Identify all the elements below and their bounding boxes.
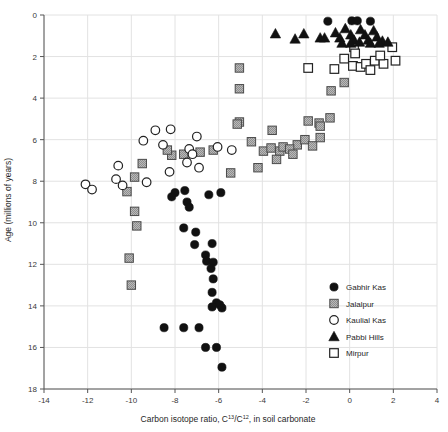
data-point [151,126,160,135]
data-point [168,193,176,201]
data-point [290,34,300,43]
data-point [330,65,339,74]
data-point [127,281,135,289]
data-point [267,144,275,152]
data-point [185,203,193,211]
data-point [209,275,217,283]
data-point [272,155,280,163]
data-point [351,49,360,58]
data-point [181,186,189,194]
x-axis-title: Carbon isotope ratio, C13/C12, in soil c… [141,414,316,425]
data-point [160,324,168,332]
data-point [235,64,243,72]
series-mirpur [304,43,400,74]
y-tick-label: 18 [28,385,37,394]
data-point [218,363,226,371]
data-point [195,324,203,332]
x-tick-label: 2 [391,396,396,405]
data-point [139,136,148,145]
data-point [304,117,312,125]
legend-label-jalalpur: Jalalpur [346,300,374,309]
legend-label-mirpur: Mirpur [346,349,369,358]
data-point [227,146,236,155]
x-tick-label: -2 [302,396,310,405]
data-point [268,126,276,134]
data-point [226,169,234,177]
data-point [208,239,216,247]
x-tick-label: -12 [82,396,94,405]
data-point [235,85,243,93]
data-point [301,135,309,143]
data-point [191,240,199,248]
data-point [166,125,175,134]
data-point [180,324,188,332]
legend-marker-pabbi-hills [329,331,339,340]
data-point [88,185,97,194]
x-tick-label: -10 [126,396,138,405]
data-point [391,56,400,65]
y-tick-label: 2 [33,53,38,62]
y-tick-label: 14 [28,302,37,311]
data-point [208,303,216,311]
data-point [376,51,385,60]
data-point [183,158,192,167]
data-point [207,264,215,272]
series-kaulial-kas [81,125,236,194]
data-point [316,133,324,141]
data-point [205,191,213,199]
data-point [138,159,146,167]
plot-canvas: -14-12-10-8-6-4-2024 024681012141618 Gab… [0,0,448,432]
legend-label-gabhir-kas: Gabhir Kas [346,283,386,292]
y-tick-label: 4 [33,94,38,103]
data-point [299,29,309,38]
y-tick-label: 10 [28,219,37,228]
data-point [247,138,255,146]
data-point [366,17,374,25]
x-tick-label: -8 [171,396,179,405]
x-tick-label: -14 [38,396,50,405]
data-point [165,168,174,177]
x-tick-label: -6 [215,396,223,405]
data-point [379,60,388,69]
legend: Gabhir KasJalalpurKaulial KasPabbi Hills… [329,283,386,358]
y-tick-label: 6 [33,136,38,145]
legend-marker-gabhir-kas [330,283,338,291]
x-axis-ticks: -14-12-10-8-6-4-2024 [38,389,440,405]
data-point [326,114,334,122]
data-point [180,224,188,232]
data-point [212,343,220,351]
x-tick-label: 4 [435,396,440,405]
data-point [114,161,123,170]
data-point [233,120,241,128]
data-point [259,147,267,155]
data-point [340,54,349,63]
y-tick-label: 16 [28,343,37,352]
x-tick-label: -4 [259,396,267,405]
data-point [353,17,361,25]
scatter-plot-figure: -14-12-10-8-6-4-2024 024681012141618 Gab… [0,0,448,432]
legend-marker-jalalpur [330,299,338,307]
legend-label-kaulial-kas: Kaulial Kas [346,316,386,325]
data-point [340,78,348,86]
data-point [304,64,313,73]
data-point [327,87,335,95]
data-point [217,189,225,197]
data-point [125,254,133,262]
data-point [208,288,216,296]
y-tick-label: 8 [33,177,38,186]
data-point [193,132,202,141]
legend-label-pabbi-hills: Pabbi Hills [346,333,384,342]
legend-marker-kaulial-kas [330,316,339,325]
data-point [142,178,151,187]
x-tick-label: 0 [347,396,352,405]
y-tick-label: 0 [33,11,38,20]
data-point [201,343,209,351]
legend-marker-mirpur [330,349,339,358]
data-point [118,181,127,190]
data-point [366,66,375,75]
y-axis-ticks: 024681012141618 [28,11,44,394]
data-point [213,143,222,152]
data-point [254,164,262,172]
data-point [159,141,168,150]
data-point [270,29,280,38]
